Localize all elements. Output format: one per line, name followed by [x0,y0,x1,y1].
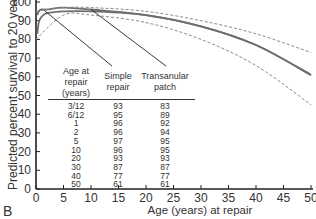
x-tick-label: 15 [107,191,131,205]
table-header-simple: Simple repair [98,71,138,93]
y-tick-label: 90 [9,14,31,28]
x-tick-label: 35 [217,191,241,205]
x-tick-label: 20 [134,191,158,205]
y-tick-label: 100 [9,0,31,9]
upper-confidence-limit-curve [36,7,311,52]
x-tick-label: 10 [79,191,103,205]
y-tick-label: 10 [9,163,31,177]
y-tick-label: 50 [9,89,31,103]
x-tick-label: 40 [244,191,268,205]
x-tick-label: 45 [272,191,296,205]
x-tick-label: 5 [52,191,76,205]
y-tick-label: 80 [9,32,31,46]
y-tick-label: 30 [9,126,31,140]
table-cell-age: 50 [56,179,96,189]
x-tick-label: 50 [299,191,316,205]
table-rule [48,99,195,100]
x-tick-label: 30 [189,191,213,205]
table-header-age: Age at repair (years) [56,66,96,99]
y-tick-label: 40 [9,107,31,121]
table-header-patch: Transanular patch [135,71,195,93]
simple-repair-leader [44,10,112,66]
y-tick-label: 70 [9,51,31,65]
x-axis-label: Age (years) at repair [80,204,316,216]
panel-label: B [3,203,12,219]
simple-repair-curve [37,8,311,75]
x-tick-label: 0 [24,191,48,205]
y-tick-label: 20 [9,145,31,159]
table-cell-patch: 61 [145,179,185,189]
table-cell-simple: 61 [98,179,138,189]
x-tick-label: 25 [162,191,186,205]
y-tick-label: 60 [9,70,31,84]
annotation-leaders [44,9,166,66]
